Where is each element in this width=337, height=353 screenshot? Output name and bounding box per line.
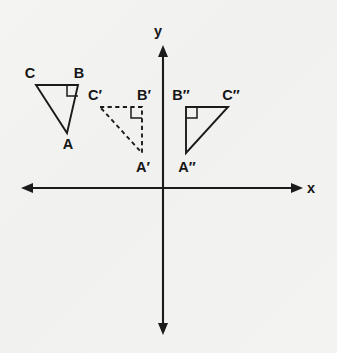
vertex-label-c-double-prime: C″ bbox=[222, 87, 239, 103]
geometry-figure: x y C B A C′ B′ A′ B″ C″ A″ bbox=[0, 0, 337, 353]
vertex-label-c-prime: C′ bbox=[88, 87, 102, 103]
triangle-a-prime-outline bbox=[100, 107, 142, 153]
triangle-a-prime: C′ B′ A′ bbox=[88, 87, 151, 175]
triangle-a-prime-right-angle-marker bbox=[131, 107, 142, 118]
x-axis-arrow-left bbox=[21, 183, 33, 193]
vertex-label-b-prime: B′ bbox=[137, 87, 151, 103]
x-axis-arrow-right bbox=[291, 183, 303, 193]
vertex-label-c: C bbox=[25, 65, 36, 81]
vertex-label-a-prime: A′ bbox=[136, 159, 150, 175]
triangle-a-double-prime-right-angle-marker bbox=[186, 107, 197, 118]
triangle-a-double-prime-outline bbox=[186, 107, 228, 153]
vertex-label-b: B bbox=[74, 65, 84, 81]
axes-group: x y bbox=[21, 23, 315, 335]
vertex-label-a-double-prime: A″ bbox=[178, 159, 195, 175]
x-axis-label: x bbox=[307, 180, 315, 196]
triangle-abc: C B A bbox=[25, 65, 84, 152]
y-axis-label: y bbox=[154, 23, 162, 39]
vertex-label-a: A bbox=[63, 136, 74, 152]
triangle-a-double-prime: B″ C″ A″ bbox=[172, 87, 239, 175]
y-axis-arrow-down bbox=[158, 323, 168, 335]
triangle-abc-outline bbox=[36, 85, 78, 133]
geometry-canvas: x y C B A C′ B′ A′ B″ C″ A″ bbox=[0, 0, 337, 353]
y-axis-arrow-up bbox=[158, 45, 168, 57]
vertex-label-b-double-prime: B″ bbox=[172, 87, 189, 103]
